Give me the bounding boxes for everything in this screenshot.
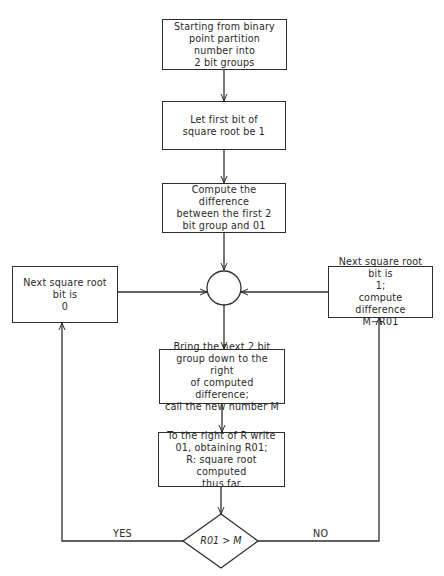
node-bit-zero-text: Next square root bit is 0 xyxy=(16,277,114,313)
node-first-bit-text: Let first bit of square root be 1 xyxy=(183,114,265,138)
node-bring-down-text: Bring the next 2 bit group down to the r… xyxy=(163,341,281,413)
node-start: Starting from binary point partition num… xyxy=(162,19,287,70)
node-write-r01: To the right of R write 01, obtaining R0… xyxy=(158,432,285,487)
node-bit-one: Next square root bit is 1; compute diffe… xyxy=(328,266,433,318)
node-first-diff-text: Compute the difference between the first… xyxy=(166,184,282,232)
node-bit-one-text: Next square root bit is 1; compute diffe… xyxy=(332,256,429,328)
node-write-r01-text: To the right of R write 01, obtaining R0… xyxy=(162,430,281,490)
node-bit-zero: Next square root bit is 0 xyxy=(12,266,118,323)
node-bring-down: Bring the next 2 bit group down to the r… xyxy=(159,349,285,404)
node-first-bit: Let first bit of square root be 1 xyxy=(162,101,286,150)
junction-circle xyxy=(207,271,241,305)
yes-branch-label: YES xyxy=(113,528,132,539)
node-start-text: Starting from binary point partition num… xyxy=(174,21,275,69)
no-branch-label: NO xyxy=(313,528,328,539)
node-first-diff: Compute the difference between the first… xyxy=(162,183,286,233)
decision-condition: R01 > M xyxy=(183,535,259,546)
